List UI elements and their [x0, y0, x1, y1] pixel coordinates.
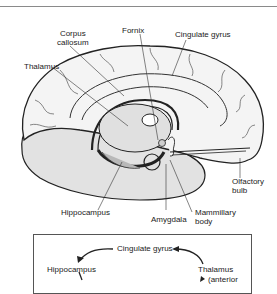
label-olfactory-line1: Olfactory — [232, 177, 264, 186]
label-hippocampus: Hippocampus — [61, 208, 110, 217]
label-corpus-line2: callosum — [57, 38, 89, 47]
flow-node-hippocampus: Hippocampus — [47, 265, 96, 274]
label-corpus-callosum: Corpus callosum — [57, 29, 89, 47]
papez-circuit-flow-box — [33, 234, 252, 294]
label-fornix: Fornix — [122, 26, 144, 35]
label-mammillary-line2: body — [195, 217, 236, 226]
flow-node-thalamus-sub: (anterior — [208, 275, 238, 284]
label-cingulate-gyrus: Cingulate gyrus — [175, 30, 231, 39]
flow-node-cingulate-gyrus: Cingulate gyrus — [117, 244, 173, 253]
label-mammillary-line1: Mammillary — [195, 208, 236, 217]
label-olfactory-bulb: Olfactory bulb — [232, 177, 264, 195]
label-thalamus: Thalamus — [24, 62, 59, 71]
flow-node-thalamus: Thalamus — [198, 265, 233, 274]
label-amygdala: Amygdala — [151, 215, 187, 224]
label-corpus-line1: Corpus — [57, 29, 89, 38]
label-olfactory-line2: bulb — [232, 186, 264, 195]
label-mammillary-body: Mammillary body — [195, 208, 236, 226]
